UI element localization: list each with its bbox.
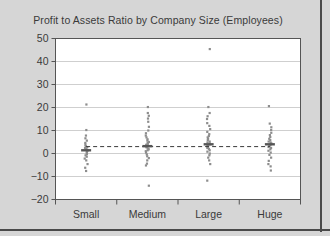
- data-point: [85, 129, 87, 131]
- xtick-label-large: Large: [195, 208, 222, 220]
- data-point: [268, 160, 270, 162]
- data-point: [207, 115, 209, 117]
- ytick-label-0: 50: [37, 32, 49, 44]
- data-point: [206, 118, 208, 120]
- data-point: [85, 170, 87, 172]
- data-point: [148, 157, 150, 159]
- data-point: [147, 129, 149, 131]
- data-point: [207, 157, 209, 159]
- data-point: [148, 126, 150, 128]
- plot-background: [56, 39, 301, 200]
- data-point: [270, 165, 272, 167]
- data-point: [85, 159, 87, 161]
- data-point: [206, 131, 208, 133]
- ytick-label-3: 20: [37, 101, 49, 113]
- figure-bottom-border: [0, 229, 330, 231]
- data-point: [267, 150, 269, 152]
- data-point: [268, 154, 270, 156]
- data-point: [270, 151, 272, 153]
- ytick-label-2: 30: [37, 78, 49, 90]
- data-point: [86, 140, 88, 142]
- data-point: [147, 117, 149, 119]
- data-point: [208, 159, 210, 161]
- xtick-label-small: Small: [73, 208, 99, 220]
- data-point: [267, 163, 269, 165]
- data-point: [146, 159, 148, 161]
- data-point: [148, 185, 150, 187]
- data-point: [147, 121, 149, 123]
- data-point: [268, 105, 270, 107]
- data-point: [209, 48, 211, 50]
- data-point: [147, 106, 149, 108]
- data-point: [145, 164, 147, 166]
- xtick-label-medium: Medium: [129, 208, 167, 220]
- data-point: [206, 151, 208, 153]
- data-point: [209, 128, 211, 130]
- ytick-label-6: −10: [31, 170, 49, 182]
- data-point: [269, 123, 271, 125]
- data-point: [209, 163, 211, 165]
- ytick-label-1: 40: [37, 55, 49, 67]
- strip-plot: 50403020100−10−20SmallMediumLargeHuge: [0, 0, 330, 236]
- data-point: [84, 137, 86, 139]
- data-point: [208, 125, 210, 127]
- data-point: [208, 154, 210, 156]
- data-point: [270, 129, 272, 131]
- ytick-label-7: −20: [31, 193, 49, 205]
- data-point: [270, 126, 272, 128]
- ytick-label-5: 0: [43, 147, 49, 159]
- data-point: [209, 149, 211, 151]
- data-point: [207, 139, 209, 141]
- figure-right-border: [320, 0, 322, 232]
- data-point: [85, 134, 87, 136]
- data-point: [148, 115, 150, 117]
- data-point: [268, 140, 270, 142]
- data-point: [270, 169, 272, 171]
- data-point: [206, 180, 208, 182]
- data-point: [86, 156, 88, 158]
- data-point: [84, 167, 86, 169]
- xtick-label-huge: Huge: [257, 208, 282, 220]
- data-point: [270, 157, 272, 159]
- data-point: [270, 132, 272, 134]
- data-point: [269, 148, 271, 150]
- data-point: [209, 112, 211, 114]
- data-point: [147, 112, 149, 114]
- data-point: [145, 132, 147, 134]
- ytick-label-4: 10: [37, 124, 49, 136]
- data-point: [207, 106, 209, 108]
- chart-figure: Profit to Assets Ratio by Company Size (…: [0, 0, 330, 236]
- data-point: [86, 163, 88, 165]
- data-point: [206, 122, 208, 124]
- data-point: [85, 103, 87, 105]
